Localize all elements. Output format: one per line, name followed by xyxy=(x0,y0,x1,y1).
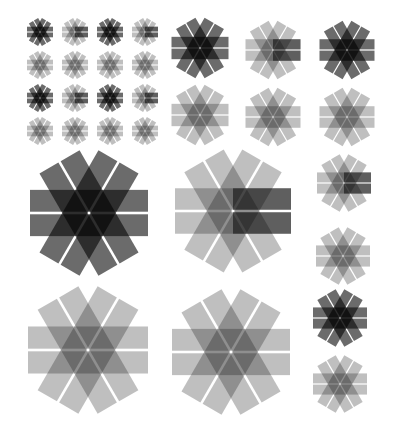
accent-strip xyxy=(344,172,371,182)
accent-strip xyxy=(145,33,158,38)
accent-strip xyxy=(145,27,158,32)
accent-strip xyxy=(145,93,158,98)
accent-strip xyxy=(344,184,371,194)
accent-strip xyxy=(75,93,88,98)
accent-strip xyxy=(75,27,88,32)
accent-strip xyxy=(145,99,158,104)
rosette-pattern-canvas xyxy=(0,0,397,433)
accent-strip xyxy=(273,39,301,49)
accent-strip xyxy=(75,99,88,104)
accent-strip xyxy=(233,188,291,209)
accent-strip xyxy=(75,33,88,38)
accent-strip xyxy=(273,51,301,61)
accent-strip xyxy=(233,212,291,233)
